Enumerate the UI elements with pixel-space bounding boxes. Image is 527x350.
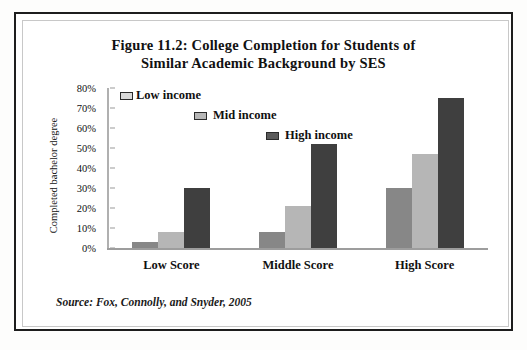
x-axis-line bbox=[107, 248, 488, 250]
bars-container bbox=[108, 88, 488, 248]
y-tick-label: 80% bbox=[77, 83, 96, 94]
figure-title-line-1: Figure 11.2: College Completion for Stud… bbox=[111, 37, 415, 53]
bar-high-income-high-score bbox=[438, 98, 464, 248]
bar-low-income-low-score bbox=[132, 242, 158, 248]
bar-high-income-middle-score bbox=[311, 144, 337, 248]
bar-low-income-middle-score bbox=[259, 232, 285, 248]
bar-mid-income-high-score bbox=[412, 154, 438, 248]
y-tick-label: 0% bbox=[82, 243, 96, 254]
x-category-label-low-score: Low Score bbox=[108, 258, 235, 273]
figure-title-line-2: Similar Academic Background by SES bbox=[34, 54, 493, 72]
figure-root: Figure 11.2: College Completion for Stud… bbox=[0, 0, 527, 350]
y-tick-label: 50% bbox=[77, 143, 96, 154]
figure-title: Figure 11.2: College Completion for Stud… bbox=[34, 36, 493, 72]
y-tick-label: 10% bbox=[77, 223, 96, 234]
y-tick-label: 40% bbox=[77, 163, 96, 174]
bar-low-income-high-score bbox=[386, 188, 412, 248]
plot-area: Completed bachelor degree 80% 70% 60% 50… bbox=[52, 88, 492, 263]
bar-high-income-low-score bbox=[184, 188, 210, 248]
y-axis-tick-labels: 80% 70% 60% 50% 40% 30% 20% 10% 0% bbox=[60, 88, 102, 248]
y-tick-label: 30% bbox=[77, 183, 96, 194]
y-tick-label: 20% bbox=[77, 203, 96, 214]
bar-mid-income-middle-score bbox=[285, 206, 311, 248]
source-note: Source: Fox, Connolly, and Snyder, 2005 bbox=[56, 296, 252, 308]
bar-mid-income-low-score bbox=[158, 232, 184, 248]
x-category-label-high-score: High Score bbox=[361, 258, 488, 273]
y-tick-label: 60% bbox=[77, 123, 96, 134]
x-axis-category-labels: Low Score Middle Score High Score bbox=[108, 254, 488, 278]
y-tick-label: 70% bbox=[77, 103, 96, 114]
x-category-label-middle-score: Middle Score bbox=[235, 258, 362, 273]
